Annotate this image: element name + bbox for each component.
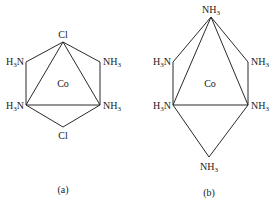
ligand-bottom-a: Cl [58, 130, 68, 141]
ligand-top-a: Cl [58, 29, 68, 40]
diagram-a: Cl H3N NH3 Co H3N NH3 Cl (a) [6, 29, 121, 196]
ligand-upper-left-a: H3N [6, 56, 24, 69]
ligand-top-b: NH3 [202, 4, 220, 17]
ligand-lower-right-a: NH3 [103, 100, 121, 113]
ligand-lower-left-b: H3N [153, 100, 171, 113]
caption-b: (b) [203, 187, 215, 199]
ligand-upper-right-a: NH3 [103, 56, 121, 69]
diagram-b: NH3 H3N NH3 Co H3N NH3 NH3 (b) [153, 4, 269, 199]
ligand-upper-right-b: NH3 [251, 56, 269, 69]
caption-a: (a) [57, 184, 68, 196]
ligand-lower-left-a: H3N [6, 100, 24, 113]
ligand-upper-left-b: H3N [153, 56, 171, 69]
center-metal-b: Co [204, 78, 216, 89]
ligand-bottom-b: NH3 [200, 161, 218, 174]
ligand-lower-right-b: NH3 [251, 100, 269, 113]
center-metal-a: Co [57, 78, 69, 89]
octahedral-complex-figure: Cl H3N NH3 Co H3N NH3 Cl (a) NH3 H3N NH3… [0, 0, 270, 203]
